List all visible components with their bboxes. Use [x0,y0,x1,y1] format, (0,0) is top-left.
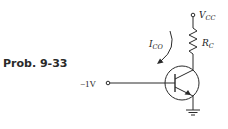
collector-lead [175,70,193,79]
ico-label: ICO [148,39,164,51]
rc-label: RC [201,38,214,50]
vcc-label: VCC [199,10,215,22]
ground-icon [186,110,200,115]
circuit-diagram: VCC RC ICO −1V [0,0,228,129]
vcc-terminal [191,13,195,17]
input-terminal [106,81,110,85]
input-voltage-label: −1V [80,79,97,89]
resistor-rc [189,28,197,54]
